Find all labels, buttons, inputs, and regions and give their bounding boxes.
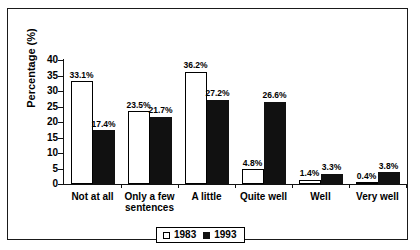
- y-axis-tick-label: 25: [30, 102, 58, 112]
- bar-1983-only-a-few-sentences[interactable]: [128, 111, 150, 184]
- y-axis-tick: [58, 184, 64, 185]
- y-axis-tick-label: 10: [30, 148, 58, 158]
- x-axis-tick: [235, 184, 236, 188]
- y-axis-tick-label: 40: [30, 55, 58, 65]
- x-axis-tick: [178, 184, 179, 188]
- y-axis-tick-label: 20: [30, 117, 58, 127]
- bar-value-label: 21.7%: [145, 106, 177, 115]
- bar-value-label: 36.2%: [180, 61, 212, 70]
- black-square-icon: [203, 232, 210, 239]
- plot-area: 33.1%17.4%23.5%21.7%36.2%27.2%4.8%26.6%1…: [64, 60, 406, 184]
- chart-legend: 19831993: [156, 227, 245, 243]
- x-axis-label-line: Very well: [343, 191, 412, 202]
- bar-group: 36.2%27.2%: [185, 60, 229, 184]
- x-axis-label-line: sentences: [115, 202, 184, 213]
- x-axis-label-very-well: Very well: [343, 191, 412, 202]
- y-axis-tick-label: 30: [30, 86, 58, 96]
- bar-1983-not-at-all[interactable]: [71, 81, 93, 184]
- bar-1983-very-well[interactable]: [356, 182, 378, 184]
- legend-item-1993[interactable]: 1993: [203, 230, 236, 240]
- bar-group: 0.4%3.8%: [356, 60, 400, 184]
- bar-1983-well[interactable]: [299, 180, 321, 184]
- bar-group: 4.8%26.6%: [242, 60, 286, 184]
- bar-value-label: 33.1%: [66, 71, 98, 80]
- bar-group: 1.4%3.3%: [299, 60, 343, 184]
- legend-item-1983[interactable]: 1983: [163, 230, 196, 240]
- bar-value-label: 3.8%: [373, 162, 405, 171]
- bar-1983-quite-well[interactable]: [242, 169, 264, 184]
- x-axis-tick: [349, 184, 350, 188]
- bar-1993-very-well[interactable]: [378, 172, 400, 184]
- bar-value-label: 17.4%: [88, 120, 120, 129]
- bar-group: 23.5%21.7%: [128, 60, 172, 184]
- bar-value-label: 27.2%: [202, 89, 234, 98]
- x-axis-tick: [406, 184, 407, 188]
- y-axis-tick-label: 0: [30, 179, 58, 189]
- figure-border: Percentage (%) 0510152025303540 33.1%17.…: [7, 8, 408, 240]
- y-axis-tick-label: 15: [30, 133, 58, 143]
- legend-label: 1993: [214, 230, 236, 240]
- bar-1993-well[interactable]: [321, 174, 343, 184]
- bar-1993-only-a-few-sentences[interactable]: [150, 117, 172, 184]
- bar-1993-quite-well[interactable]: [264, 102, 286, 184]
- y-axis-tick-label: 5: [30, 164, 58, 174]
- x-axis-tick: [292, 184, 293, 188]
- white-square-icon: [163, 232, 170, 239]
- bar-1993-a-little[interactable]: [207, 100, 229, 184]
- bar-value-label: 26.6%: [259, 91, 291, 100]
- bar-1993-not-at-all[interactable]: [93, 130, 115, 184]
- chart-figure: Percentage (%) 0510152025303540 33.1%17.…: [0, 0, 420, 250]
- bar-group: 33.1%17.4%: [71, 60, 115, 184]
- bar-value-label: 3.3%: [316, 163, 348, 172]
- x-axis-tick: [121, 184, 122, 188]
- legend-label: 1983: [174, 230, 196, 240]
- y-axis-tick-label: 35: [30, 71, 58, 81]
